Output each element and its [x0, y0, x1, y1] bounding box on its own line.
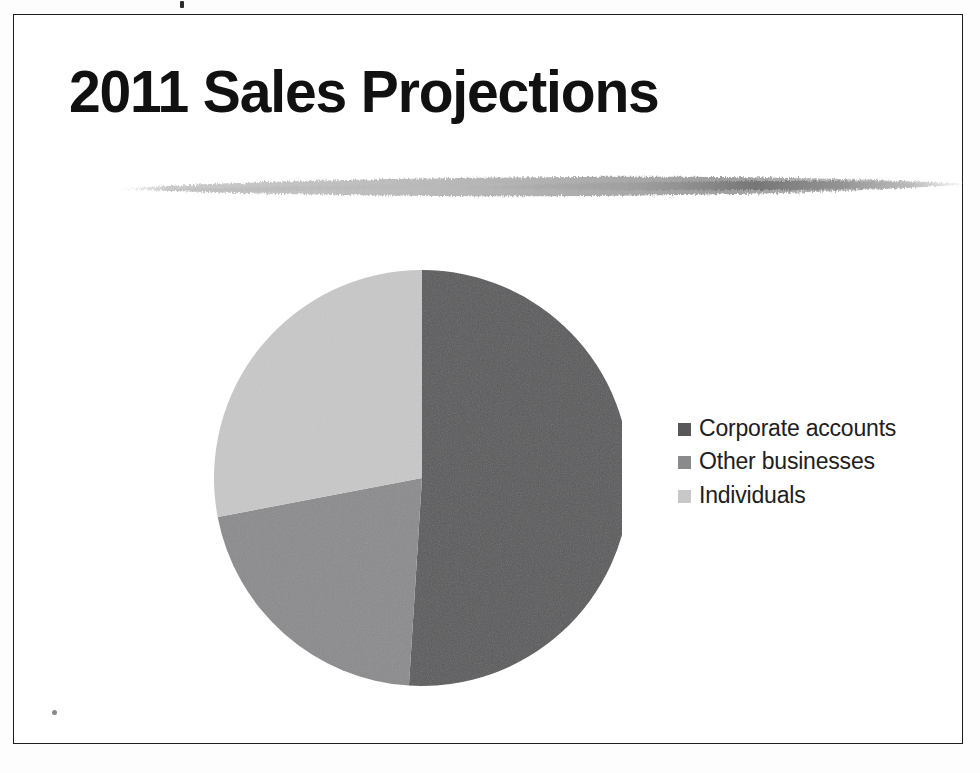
- chart-legend: Corporate accounts Other businesses Indi…: [678, 415, 943, 515]
- pie-slice-individuals: [214, 270, 422, 517]
- legend-swatch-icon: [678, 423, 691, 436]
- scanned-slide-page: 2011 Sales Projections: [0, 0, 980, 773]
- scan-speck-bottom: [52, 710, 57, 715]
- pie-chart: Corporate accounts Other businesses Indi…: [14, 15, 964, 745]
- legend-item-corporate-accounts: Corporate accounts: [678, 415, 943, 441]
- legend-swatch-icon: [678, 456, 691, 469]
- pie-slices: [214, 270, 622, 686]
- legend-label: Other businesses: [699, 448, 875, 474]
- pie-svg: [206, 229, 622, 695]
- legend-label: Individuals: [699, 482, 805, 508]
- legend-item-individuals: Individuals: [678, 482, 943, 508]
- legend-label: Corporate accounts: [699, 415, 896, 441]
- slide-border-frame: 2011 Sales Projections: [13, 14, 963, 744]
- legend-swatch-icon: [678, 490, 691, 503]
- pie-graphic: [206, 229, 622, 695]
- scan-speck-top: [180, 1, 184, 8]
- pie-slice-corporate-accounts: [409, 270, 622, 686]
- legend-item-other-businesses: Other businesses: [678, 448, 943, 474]
